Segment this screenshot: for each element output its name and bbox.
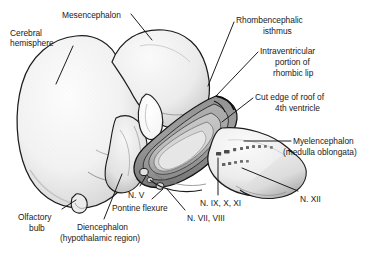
- label-cut-edge-line2: 4th ventricle: [275, 103, 320, 113]
- leader-rhombic-lip: [216, 52, 258, 96]
- label-cerebral-hemisphere-line2: hemisphere: [10, 38, 54, 48]
- label-rhombic-lip-line1: Intraventricular: [260, 46, 315, 56]
- label-rhombencephalic-isthmus-line2: isthmus: [263, 26, 292, 36]
- label-olfactory-bulb-line2: bulb: [29, 223, 45, 233]
- leader-pontine-flexure: [152, 189, 163, 199]
- label-cerebral-hemisphere-line1: Cerebral: [10, 28, 42, 38]
- olfactory-bulb-shape: [71, 194, 87, 213]
- label-mesencephalon: Mesencephalon: [62, 10, 121, 20]
- brain-diagram-figure: Mesencephalon Cerebral hemisphere Rhombe…: [0, 0, 388, 255]
- label-rhombic-lip-line2: portion of: [275, 57, 310, 67]
- label-nerve-xii: N. XII: [300, 194, 321, 204]
- label-diencephalon-line2: (hypothalamic region): [60, 233, 140, 243]
- label-olfactory-bulb-line1: Olfactory: [18, 212, 51, 222]
- label-nerve-ix-x-xi: N. IX, X, XI: [200, 198, 241, 208]
- label-nerve-v: N. V: [128, 190, 144, 200]
- label-nerve-vii-viii: N. VII, VIII: [187, 213, 225, 223]
- leader-rhombencephalic-isthmus: [208, 22, 234, 86]
- label-diencephalon-line1: Diencephalon: [77, 222, 128, 232]
- label-rhombencephalic-isthmus-line1: Rhombencephalic: [236, 15, 303, 25]
- label-rhombic-lip-line3: rhombic lip: [273, 68, 313, 78]
- label-myelencephalon-line2: (medulla oblongata): [283, 147, 357, 157]
- label-myelencephalon-line1: Myelencephalon: [293, 136, 354, 146]
- label-cut-edge-line1: Cut edge of roof of: [255, 92, 324, 102]
- label-pontine-flexure: Pontine flexure: [112, 203, 168, 213]
- leader-nerve-vii-viii: [167, 189, 185, 210]
